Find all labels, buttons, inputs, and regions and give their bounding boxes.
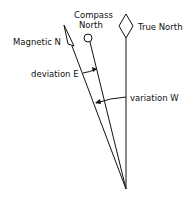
magnetic-north-label: Magnetic N <box>13 37 61 47</box>
compass-north-label-1: Compass <box>74 10 113 20</box>
true-north-diamond-icon <box>119 14 133 38</box>
magnetic-north-triangle-icon <box>64 25 74 46</box>
compass-north-line <box>90 42 126 189</box>
true-north-label: True North <box>137 22 183 32</box>
variation-arrowhead-icon <box>95 99 101 104</box>
compass-diagram: Compass North True North Magnetic N devi… <box>0 0 192 200</box>
deviation-label: deviation E <box>31 69 79 79</box>
compass-north-label-2: North <box>79 20 103 30</box>
variation-label: variation W <box>130 93 179 103</box>
magnetic-north-line <box>72 46 126 189</box>
compass-north-circle-icon <box>84 34 92 42</box>
